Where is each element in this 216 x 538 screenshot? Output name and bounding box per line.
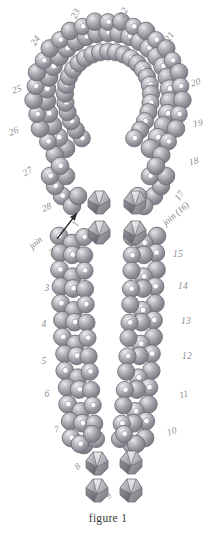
bead	[84, 397, 101, 414]
bead	[83, 381, 100, 398]
label-step-14: 14	[178, 282, 188, 292]
label-step-19: 19	[192, 118, 203, 129]
bead	[79, 329, 96, 346]
bead	[116, 381, 133, 398]
label-step-4: 4	[42, 320, 47, 330]
label-step-11: 11	[179, 389, 190, 400]
bead	[126, 130, 143, 147]
bead	[122, 280, 139, 297]
bead	[118, 363, 135, 380]
label-step-5: 5	[42, 357, 47, 367]
bead	[83, 425, 100, 442]
bead	[121, 314, 138, 331]
label-step-3: 3	[45, 284, 50, 294]
bead	[123, 262, 140, 279]
bead	[80, 348, 97, 365]
bead	[81, 363, 98, 380]
label-step-15: 15	[173, 250, 183, 260]
figure-canvas: 2322242125202619271828171215314413512611…	[0, 0, 216, 538]
bicone-bead	[120, 479, 142, 502]
bead	[76, 262, 93, 279]
bead	[77, 296, 94, 313]
bead	[76, 247, 93, 264]
bead	[119, 348, 136, 365]
bead	[147, 157, 165, 175]
label-step-12: 12	[182, 352, 192, 362]
bead	[51, 157, 69, 175]
bead	[78, 314, 95, 331]
bead	[122, 296, 139, 313]
bead	[115, 425, 132, 442]
bead	[123, 247, 140, 264]
bead	[115, 397, 132, 414]
bicone-bead	[88, 191, 110, 214]
bead	[69, 187, 87, 205]
label-step-6: 6	[45, 390, 50, 400]
beading-diagram-svg	[0, 0, 216, 538]
bicone-bead	[120, 451, 142, 474]
bead	[76, 280, 93, 297]
bicone-bead	[124, 191, 146, 214]
bead	[120, 329, 137, 346]
figure-caption: figure 1	[0, 512, 216, 524]
label-step-13: 13	[181, 317, 191, 327]
bicone-bead	[86, 452, 108, 475]
